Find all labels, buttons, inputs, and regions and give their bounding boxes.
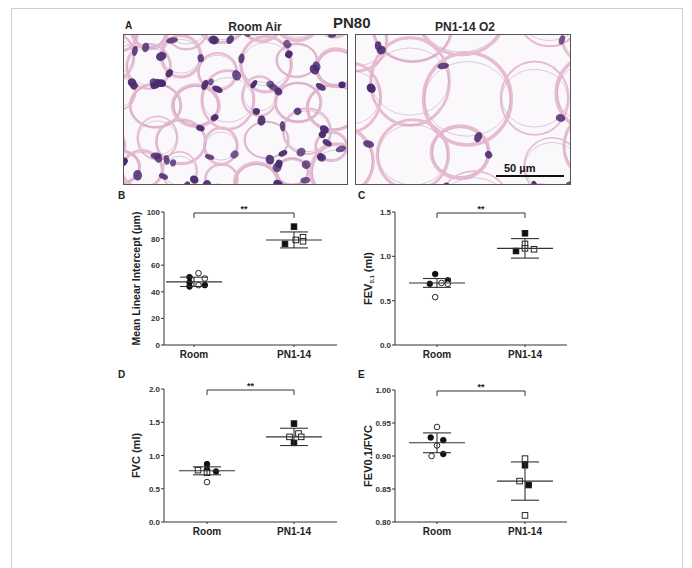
data-point [204,461,210,467]
y-tick-label: 0 [156,341,161,350]
data-point [445,281,451,287]
y-tick-label: 0.85 [375,485,391,494]
x-category-label: PN1-14 [277,349,311,360]
y-tick-label: 20 [151,314,160,323]
series-room [409,424,465,459]
series-pn1-14 [497,456,553,518]
chart-panel-c-fev01: C0.00.51.01.5RoomPN1-14FEV0.1 (ml)** [350,190,590,362]
y-tick-label: 0.5 [149,485,161,494]
y-tick-label: 2.0 [149,385,161,394]
x-category-label: Room [180,349,208,360]
series-pn1-14 [266,224,322,248]
data-point [441,437,447,443]
data-point [202,276,208,282]
y-axis-label: Mean Linear Intercept (µm) [130,212,142,346]
scale-bar-label: 50 µm [504,162,535,174]
series-room [166,270,222,289]
y-tick-label: 0.0 [380,341,392,350]
y-axis-label: FEV0.1/FVC [362,425,374,487]
data-point [204,479,210,485]
y-tick-label: 0.95 [375,419,391,428]
data-point [531,246,537,252]
data-point [522,230,528,236]
data-point [196,282,202,288]
significance-marker: ** [240,204,248,214]
data-point [522,456,528,462]
data-point [195,467,201,473]
x-category-label: PN1-14 [508,349,542,360]
x-category-label: PN1-14 [277,526,311,537]
y-tick-label: 0.5 [380,297,392,306]
panel-letter: E [358,369,365,380]
data-point [282,241,288,247]
data-point [429,453,435,459]
data-point [513,248,519,254]
data-point [428,435,434,441]
figure-title: PN80 [333,14,371,31]
series-room [409,271,465,300]
data-point [196,270,202,276]
data-point [432,271,438,277]
y-axis-label: FVC (ml) [130,433,142,479]
chart-panel-d-fvc: D0.00.51.01.52.0RoomPN1-14FVC (ml)** [110,366,350,541]
panel-a-letter: A [125,20,132,31]
y-tick-label: 1.5 [380,208,392,217]
data-point [522,513,528,519]
y-tick-label: 40 [151,288,160,297]
y-tick-label: 1.0 [380,252,392,261]
data-point [434,424,440,430]
x-category-label: Room [423,526,451,537]
significance-marker: ** [477,204,485,214]
room-air-title: Room Air [195,20,315,34]
data-point [526,482,532,488]
chart-panel-b-mean-linear-intercept: B020406080100RoomPN1-14Mean Linear Inter… [110,190,350,362]
x-category-label: PN1-14 [508,526,542,537]
histology-image-pn1-14-o2: 50 µm [355,34,571,185]
data-point [441,451,447,457]
data-point [291,421,297,427]
panel-letter: B [118,190,125,201]
y-tick-label: 1.00 [375,386,391,395]
data-point [291,224,297,230]
significance-marker: ** [477,382,485,392]
y-tick-label: 100 [147,208,161,217]
y-tick-label: 0.80 [375,518,391,527]
chart-panel-e-fev-fvc-ratio: E0.800.850.900.951.00RoomPN1-14FEV0.1/FV… [350,366,590,541]
x-category-label: Room [193,526,221,537]
y-tick-label: 60 [151,261,160,270]
series-pn1-14 [497,230,553,258]
y-tick-label: 1.5 [149,418,161,427]
data-point [300,238,306,244]
pn1-14-tissue-illustration [356,35,571,185]
data-point [213,469,219,475]
x-category-label: Room [423,349,451,360]
pn1-14-o2-title: PN1-14 O2 [400,20,530,34]
panel-letter: C [358,190,365,201]
panel-letter: D [118,369,125,380]
series-room [179,461,235,485]
series-pn1-14 [266,421,322,446]
y-tick-label: 0.90 [375,452,391,461]
scale-bar [496,175,564,177]
significance-marker: ** [247,381,255,391]
room-air-tissue-illustration [124,35,348,185]
y-tick-label: 0.0 [149,518,161,527]
data-point [432,294,438,300]
data-point [427,281,433,287]
histology-image-room-air [123,34,348,185]
data-point [202,282,208,288]
y-tick-label: 80 [151,235,160,244]
y-axis-label: FEV0.1 (ml) [362,252,375,305]
y-tick-label: 1.0 [149,452,161,461]
